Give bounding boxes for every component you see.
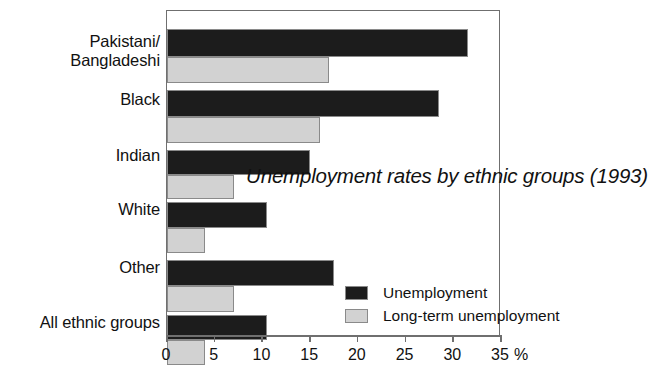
legend-label-unemployment: Unemployment <box>383 283 487 302</box>
x-axis-tick-0 <box>166 335 168 342</box>
bar-longterm-other <box>167 286 234 312</box>
x-axis-tick-label-25: 25 <box>385 345 425 364</box>
x-axis-tick-15 <box>309 335 311 342</box>
x-axis-tick-label-15: 15 <box>289 345 329 364</box>
bar-longterm-indian <box>167 175 234 199</box>
x-axis-tick-35 <box>500 335 502 342</box>
bar-unemployment-other <box>167 260 334 286</box>
legend-item-longterm-unemployment: Long-term unemployment <box>345 305 655 326</box>
x-axis-tick-label-0: 0 <box>146 345 186 364</box>
y-axis-label-white: White <box>0 200 160 219</box>
y-axis-label-other: Other <box>0 258 160 277</box>
x-axis-tick-10 <box>261 335 263 342</box>
y-axis-label-indian: Indian <box>0 146 160 165</box>
chart-title: Unemployment rates by ethnic groups (199… <box>232 163 662 189</box>
x-axis-tick-label-30: 30 <box>432 345 472 364</box>
x-axis-tick-5 <box>214 335 216 342</box>
legend-item-unemployment: Unemployment <box>345 282 655 303</box>
y-axis-label-black: Black <box>0 90 160 109</box>
chart-legend: Unemployment Long-term unemployment <box>345 282 655 328</box>
x-axis-tick-20 <box>357 335 359 342</box>
bar-longterm-white <box>167 228 205 253</box>
x-axis-tick-label-5: 5 <box>194 345 234 364</box>
x-axis-tick-25 <box>405 335 407 342</box>
legend-label-longterm-unemployment: Long-term unemployment <box>383 306 560 325</box>
chart-container: Pakistani/ Bangladeshi Black Indian Whit… <box>0 0 665 381</box>
bar-unemployment-white <box>167 202 267 228</box>
y-axis-category-labels: Pakistani/ Bangladeshi Black Indian Whit… <box>0 10 160 335</box>
bar-unemployment-pakistani-bangladeshi <box>167 29 468 57</box>
legend-swatch-unemployment <box>345 286 368 300</box>
y-axis-label-pakistani-bangladeshi: Pakistani/ Bangladeshi <box>0 32 160 70</box>
bar-longterm-black <box>167 117 320 143</box>
x-axis-tick-30 <box>452 335 454 342</box>
bar-longterm-pakistani-bangladeshi <box>167 57 329 83</box>
y-axis-label-all-ethnic-groups: All ethnic groups <box>0 313 160 332</box>
x-axis-line <box>166 335 500 337</box>
legend-swatch-longterm-unemployment <box>345 309 368 323</box>
bar-unemployment-black <box>167 90 439 117</box>
x-axis-percent-label: % <box>514 345 528 364</box>
x-axis-tick-label-20: 20 <box>337 345 377 364</box>
x-axis-tick-label-10: 10 <box>241 345 281 364</box>
